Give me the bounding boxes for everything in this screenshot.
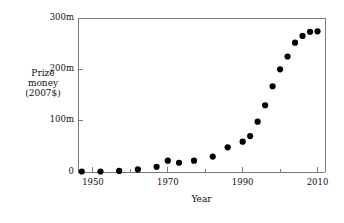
y-axis-title: Prizemoney(2007$) bbox=[14, 68, 72, 98]
data-point bbox=[225, 144, 231, 150]
data-point bbox=[116, 168, 122, 174]
chart-figure: 0100m200m300m 1950197019902010 Prizemone… bbox=[0, 0, 344, 223]
y-tick-marks bbox=[78, 18, 83, 172]
y-axis-title-line: Prize bbox=[14, 68, 72, 78]
data-point bbox=[307, 29, 313, 35]
data-point bbox=[79, 168, 85, 174]
data-point bbox=[165, 158, 171, 164]
x-tick-label: 2010 bbox=[298, 178, 338, 188]
data-points bbox=[79, 28, 321, 174]
x-tick-label: 1990 bbox=[223, 178, 263, 188]
data-point bbox=[191, 158, 197, 164]
data-point bbox=[210, 154, 216, 160]
data-point bbox=[299, 33, 305, 39]
data-point bbox=[153, 164, 159, 170]
scatter-plot-canvas bbox=[0, 0, 344, 223]
data-point bbox=[247, 133, 253, 139]
data-point bbox=[255, 119, 261, 125]
x-tick-label: 1970 bbox=[148, 178, 188, 188]
y-tick-label: 0 bbox=[69, 167, 74, 177]
axes bbox=[78, 18, 325, 172]
data-point bbox=[314, 28, 320, 34]
data-point bbox=[262, 102, 268, 108]
x-tick-label: 1950 bbox=[73, 178, 113, 188]
x-tick-marks bbox=[93, 167, 318, 172]
y-tick-label: 100m bbox=[50, 115, 74, 125]
y-tick-label: 300m bbox=[50, 13, 74, 23]
axis-frame bbox=[78, 18, 325, 172]
data-point bbox=[284, 53, 290, 59]
data-point bbox=[292, 40, 298, 46]
y-axis-title-line: money bbox=[14, 78, 72, 88]
data-point bbox=[277, 66, 283, 72]
data-point bbox=[270, 83, 276, 89]
data-point bbox=[135, 166, 141, 172]
x-axis-title: Year bbox=[162, 194, 242, 204]
data-point bbox=[176, 160, 182, 166]
data-point bbox=[240, 139, 246, 145]
data-point bbox=[97, 168, 103, 174]
y-axis-title-line: (2007$) bbox=[14, 88, 72, 98]
